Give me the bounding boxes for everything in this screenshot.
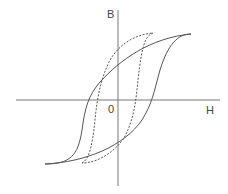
origin-label: 0 bbox=[108, 103, 114, 115]
hysteresis-diagram: B H 0 bbox=[0, 0, 228, 194]
hysteresis-plot bbox=[0, 0, 228, 194]
b-axis-label: B bbox=[107, 8, 114, 20]
h-axis-label: H bbox=[206, 104, 214, 116]
